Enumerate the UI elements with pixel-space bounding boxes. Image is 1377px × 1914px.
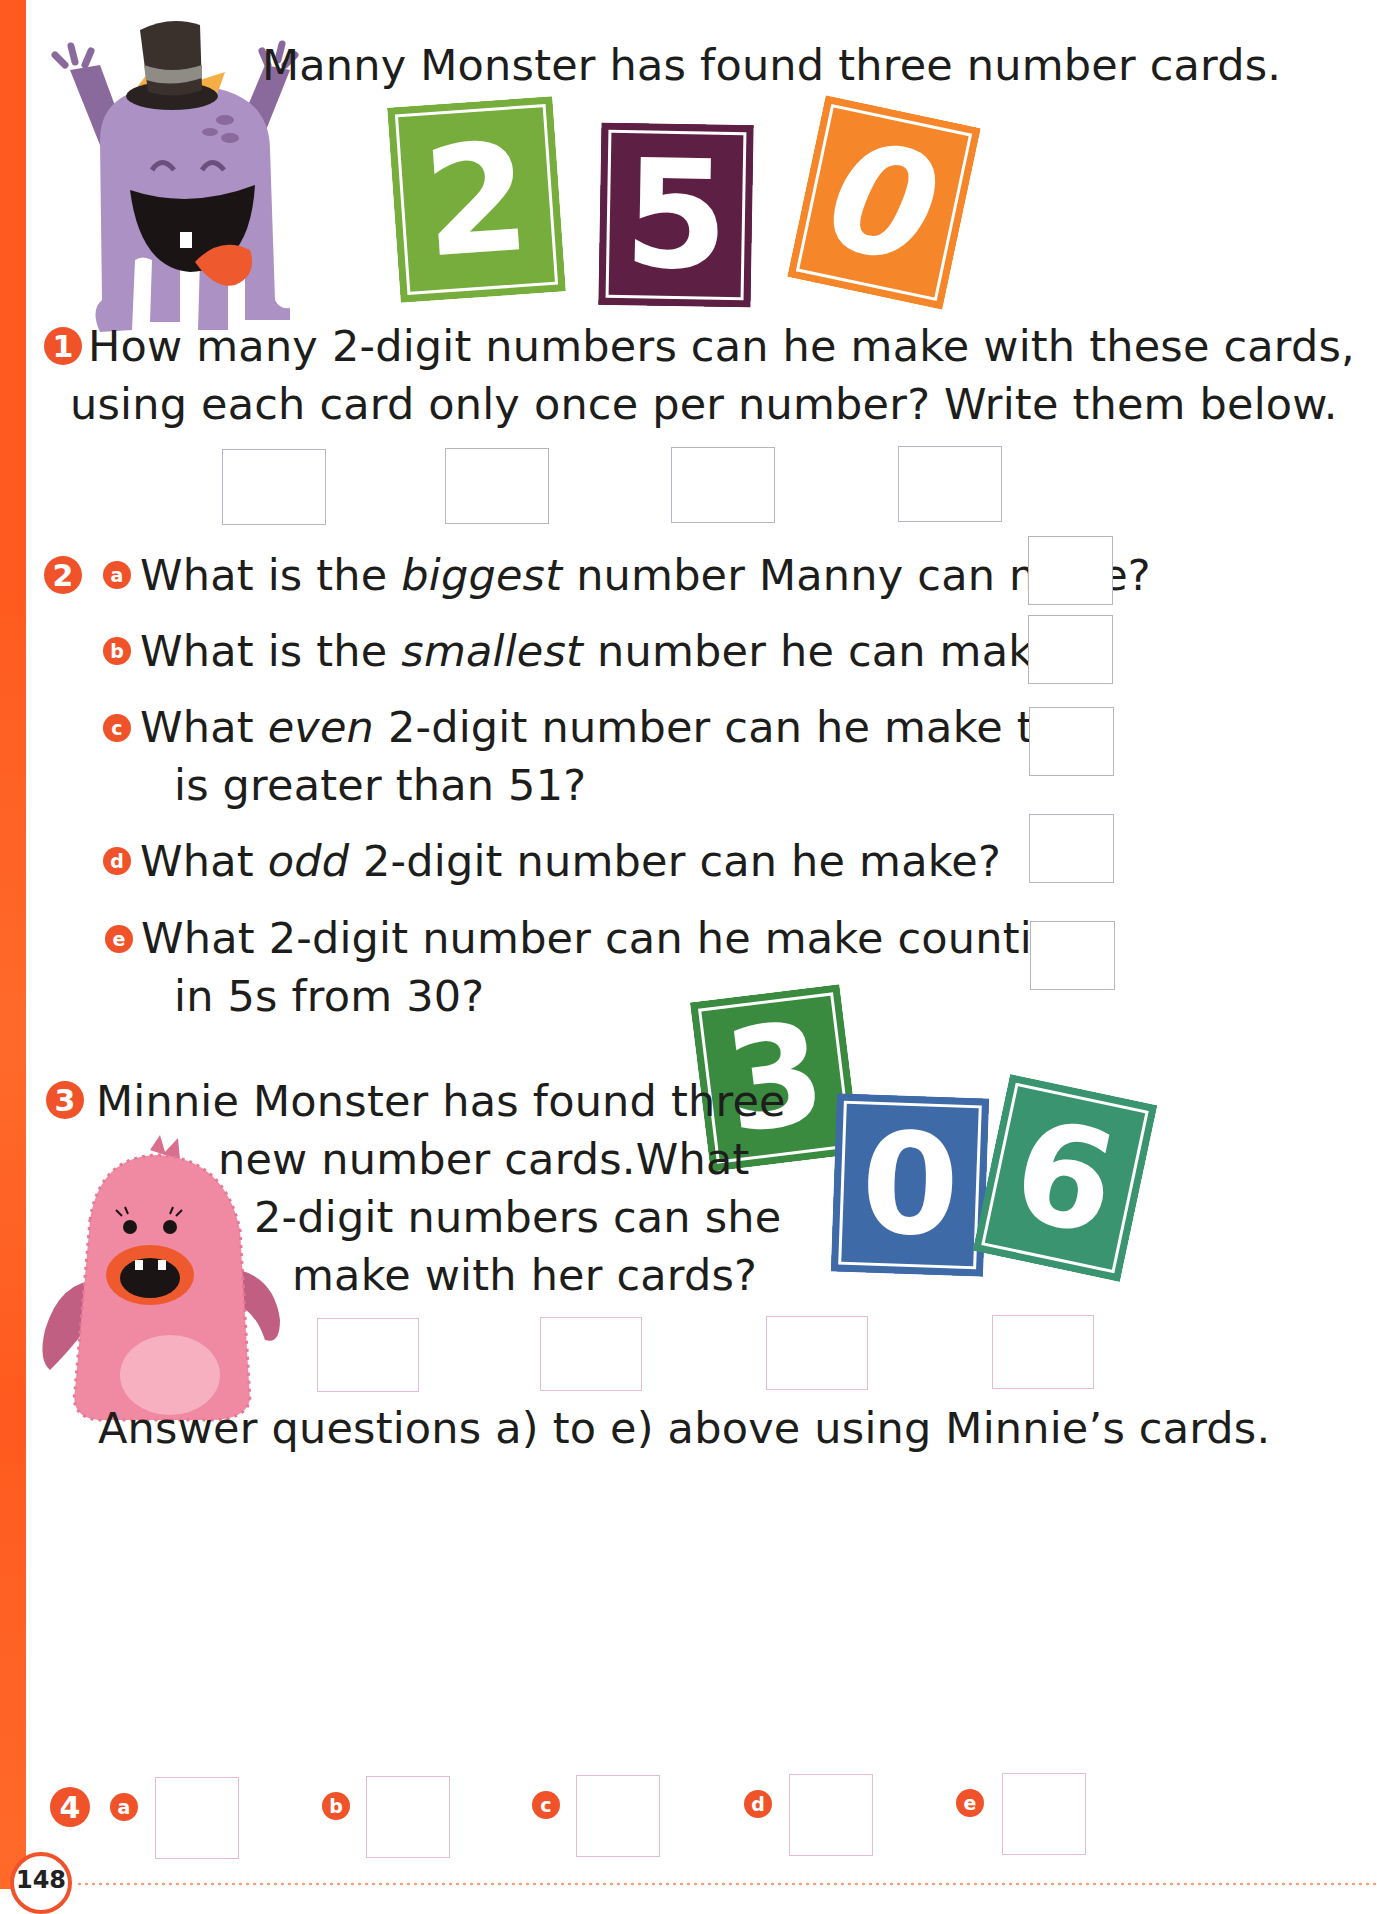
footer-dotted-line [76,1882,1376,1886]
q2d-text: What odd 2-digit number can he make? [140,840,1001,883]
question-number-1: 1 [44,327,82,365]
q1-answer-box-2[interactable] [445,448,549,524]
q2b-text: What is the smallest number he can make? [140,630,1082,673]
q2d-answer-box[interactable] [1029,814,1114,883]
q2-letter-a: a [103,561,131,589]
q1-text-line1: How many 2-digit numbers can he make wit… [88,325,1355,368]
number-card-2: 2 [387,96,565,302]
number-card-5: 5 [598,123,753,308]
q3-text-line3: 2-digit numbers can she [254,1196,781,1239]
q3-answer-box-1[interactable] [317,1318,419,1392]
q4d-answer-box[interactable] [789,1774,873,1856]
q2c-text-line2: is greater than 51? [174,764,586,807]
q2e-text-line2: in 5s from 30? [174,975,484,1018]
q2b-answer-box[interactable] [1028,615,1113,684]
q3-answer-box-4[interactable] [992,1315,1094,1389]
q4-letter-d: d [744,1790,772,1818]
q2-letter-c: c [103,714,131,742]
q2a-answer-box[interactable] [1028,536,1113,605]
q1-answer-box-3[interactable] [671,447,775,523]
q3-text-line4: make with her cards? [292,1254,757,1297]
q2a-text: What is the biggest number Manny can mak… [140,554,1151,597]
q1-answer-box-4[interactable] [898,446,1002,522]
q1-answer-box-1[interactable] [222,449,326,525]
q3-answer-box-2[interactable] [540,1317,642,1391]
q3-text-line1: Minnie Monster has found three [96,1080,786,1123]
q3-answer-box-3[interactable] [766,1316,868,1390]
q3-text-line2: new number cards.What [218,1138,750,1181]
minnie-monster-illustration [30,1130,290,1430]
q2-letter-d: d [103,847,131,875]
q4-letter-a: a [110,1793,138,1821]
intro-text: Manny Monster has found three number car… [262,44,1281,87]
instruction-text: Answer questions a) to e) above using Mi… [98,1407,1270,1450]
q4c-answer-box[interactable] [576,1775,660,1857]
q1-text-line2: using each card only once per number? Wr… [70,383,1338,426]
question-number-3: 3 [46,1081,84,1119]
page-edge-stripe [0,0,26,1889]
number-card-0-blue: 0 [831,1093,989,1276]
question-number-2: 2 [44,556,82,594]
q2e-text-line1: What 2-digit number can he make counting [141,917,1087,960]
q4a-answer-box[interactable] [155,1777,239,1859]
q4e-answer-box[interactable] [1002,1773,1086,1855]
q2-letter-e: e [105,925,133,953]
q2c-answer-box[interactable] [1029,707,1114,776]
page-number: 148 [10,1852,72,1914]
q4-letter-c: c [532,1791,560,1819]
number-card-6: 6 [973,1074,1157,1281]
q2-letter-b: b [103,637,131,665]
q2e-answer-box[interactable] [1030,921,1115,990]
number-card-0: 0 [787,96,980,310]
q4-letter-e: e [956,1789,984,1817]
q4-letter-b: b [322,1792,350,1820]
q4b-answer-box[interactable] [366,1776,450,1858]
q2c-text-line1: What even 2-digit number can he make tha… [140,706,1105,749]
question-number-4: 4 [50,1787,90,1827]
